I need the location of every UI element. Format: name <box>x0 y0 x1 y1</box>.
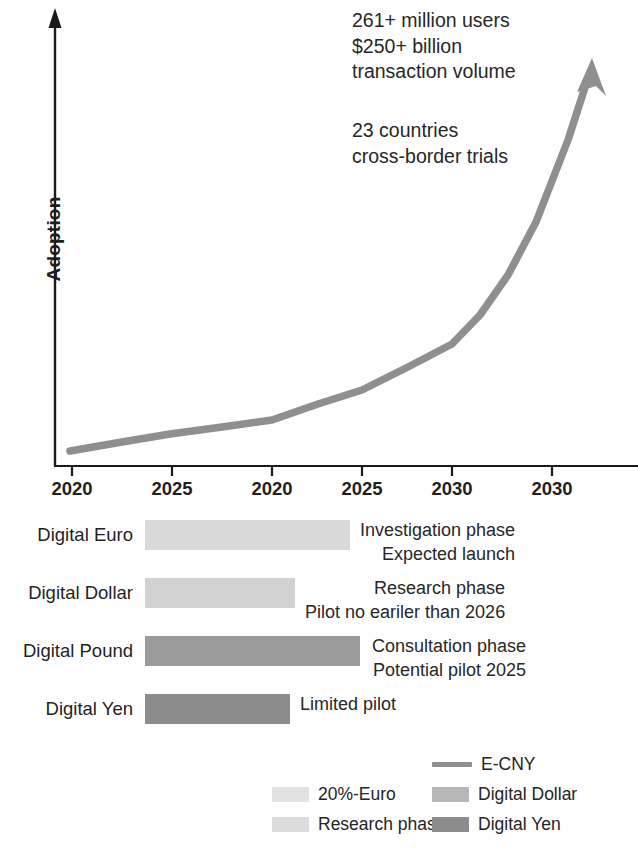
bar-description: Investigation phase Expected launch <box>360 518 515 566</box>
bar-rect-digital-pound <box>145 636 360 666</box>
bar-description: Research phase Pilot no eariler than 202… <box>305 576 505 624</box>
bar-category-label: Digital Pound <box>0 640 133 662</box>
legend-swatch-icon <box>272 817 309 832</box>
bar-rect-digital-yen <box>145 694 290 724</box>
annotation-countries: 23 countries cross-border trials <box>352 118 508 169</box>
bar-rect-digital-euro <box>145 520 350 550</box>
bar-description: Limited pilot <box>300 692 396 716</box>
legend-label: Digital Yen <box>478 814 561 835</box>
x-tick-label-4: 2025 <box>327 478 397 500</box>
bar-rect-digital-dollar <box>145 578 295 608</box>
x-tick-label-2: 2025 <box>137 478 207 500</box>
legend-entry-digital-yen: Digital Yen <box>432 814 561 835</box>
x-tick-label-6: 2030 <box>517 478 587 500</box>
legend-swatch-icon <box>432 817 469 832</box>
bar-description: Consultation phase Potential pilot 2025 <box>372 634 526 682</box>
legend-swatch-icon <box>272 787 309 802</box>
bar-row: Digital Dollar Research phase Pilot no e… <box>0 574 638 632</box>
legend-label: Research phase <box>318 814 445 835</box>
y-axis-label: Adoption <box>43 179 65 299</box>
x-axis <box>54 466 638 476</box>
x-tick-label-3: 2020 <box>237 478 307 500</box>
line-chart-svg <box>0 0 638 512</box>
bar-row: Digital Pound Consultation phase Potenti… <box>0 632 638 690</box>
legend-label: Digital Dollar <box>478 784 577 805</box>
legend-entry-digital-dollar: Digital Dollar <box>432 784 577 805</box>
legend-label: E-CNY <box>481 754 535 775</box>
x-tick-label-1: 2020 <box>37 478 107 500</box>
annotation-adoption-stats: 261+ million users $250+ billion transac… <box>352 8 516 85</box>
cbdc-adoption-figure: Adoption 261+ million users $250+ billio… <box>0 0 638 848</box>
legend-line-icon <box>432 762 472 767</box>
bar-row: Digital Euro Investigation phase Expecte… <box>0 516 638 574</box>
legend-entry-euro: 20%-Euro <box>272 784 396 805</box>
cbdc-status-bar-panel: Digital Euro Investigation phase Expecte… <box>0 516 638 748</box>
chart-legend: E-CNY 20%-Euro Digital Dollar Research p… <box>0 748 638 848</box>
bar-category-label: Digital Euro <box>0 524 133 546</box>
bar-category-label: Digital Dollar <box>0 582 133 604</box>
bar-row: Digital Yen Limited pilot <box>0 690 638 748</box>
legend-entry-research-phase: Research phase <box>272 814 445 835</box>
line-chart-panel: Adoption 261+ million users $250+ billio… <box>0 0 638 512</box>
ecny-series-line <box>70 58 606 451</box>
legend-swatch-icon <box>432 787 469 802</box>
legend-label: 20%-Euro <box>318 784 396 805</box>
bar-category-label: Digital Yen <box>0 698 133 720</box>
x-tick-label-5: 2030 <box>417 478 487 500</box>
legend-entry-e-cny: E-CNY <box>432 754 535 775</box>
